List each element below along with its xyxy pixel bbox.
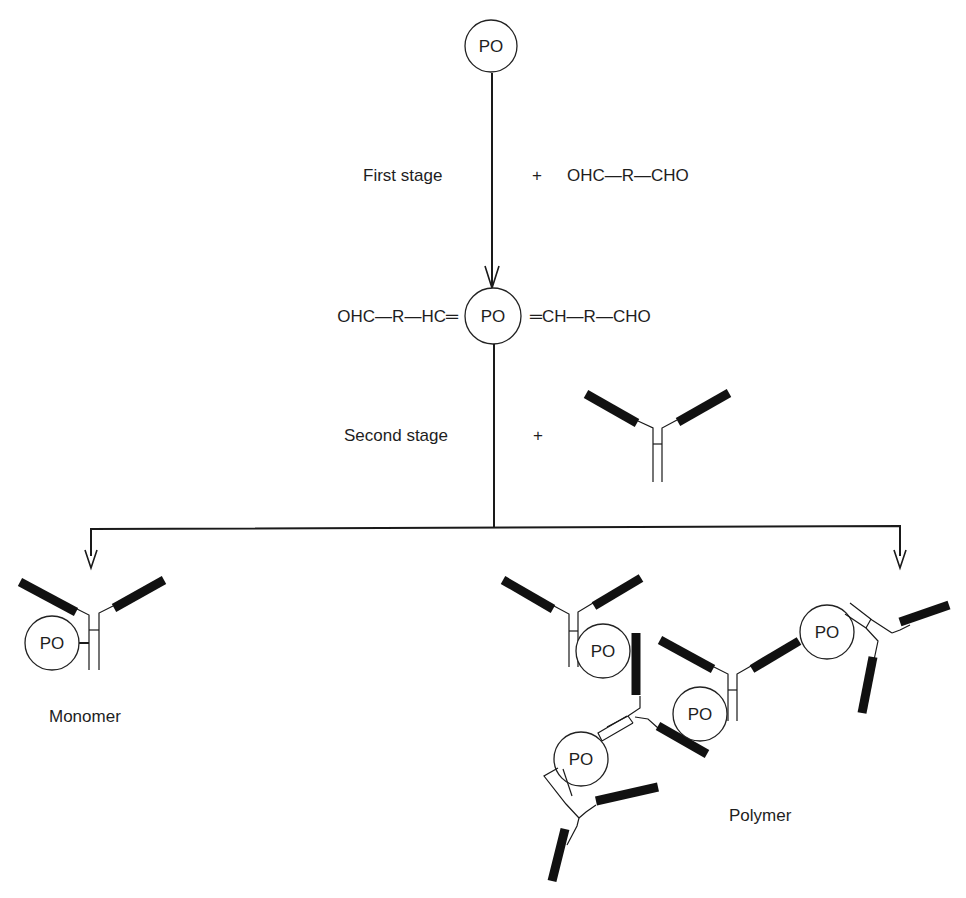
polymer: PO PO PO PO xyxy=(503,578,949,881)
intermediate-left-chain: OHC—R—HC═ xyxy=(337,307,459,326)
plus-sign: + xyxy=(532,166,542,185)
po-label: PO xyxy=(481,307,506,326)
reaction-diagram: PO First stage + OHC—R—CHO OHC—R—HC═ PO … xyxy=(0,0,966,898)
monomer-label: Monomer xyxy=(49,707,121,726)
polymer-label: Polymer xyxy=(729,806,792,825)
antibody-icon xyxy=(586,393,729,482)
second-stage-label: Second stage xyxy=(344,426,448,445)
po-label: PO xyxy=(591,642,616,661)
po-label: PO xyxy=(815,623,840,642)
po-node-intermediate: PO xyxy=(465,288,521,344)
intermediate-right-chain: ═CH—R—CHO xyxy=(529,307,651,326)
plus-sign: + xyxy=(533,426,543,445)
po-node-top: PO xyxy=(465,20,517,72)
po-label: PO xyxy=(569,750,594,769)
dialdehyde-reagent: OHC—R—CHO xyxy=(567,166,689,185)
po-label: PO xyxy=(479,37,504,56)
po-label: PO xyxy=(40,634,65,653)
monomer: PO xyxy=(20,580,164,670)
first-stage-label: First stage xyxy=(363,166,442,185)
branch-line xyxy=(91,526,900,556)
po-label: PO xyxy=(688,705,713,724)
